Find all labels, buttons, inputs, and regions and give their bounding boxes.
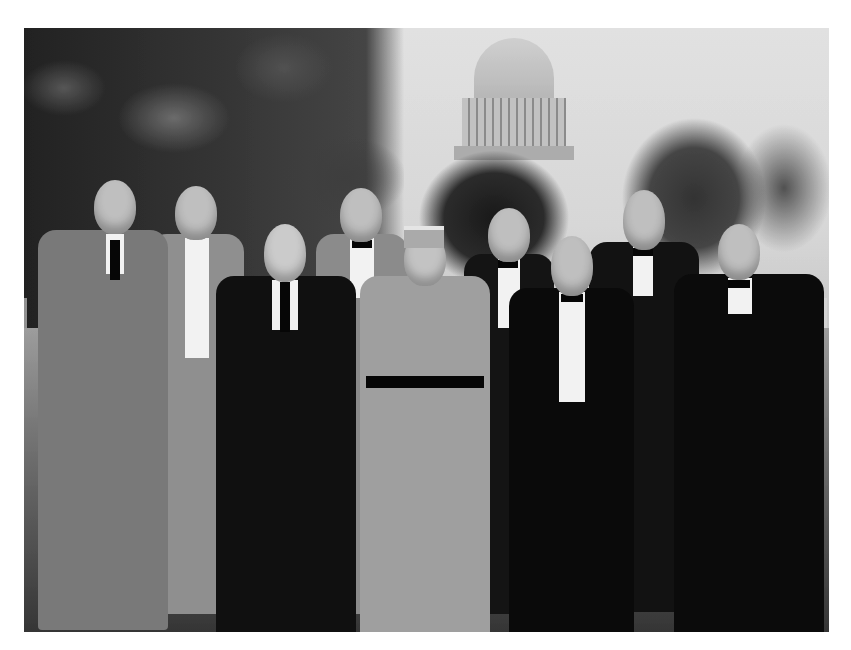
dome-cap	[474, 38, 554, 98]
kepi-cap	[404, 226, 444, 248]
historical-group-photo	[24, 28, 829, 632]
